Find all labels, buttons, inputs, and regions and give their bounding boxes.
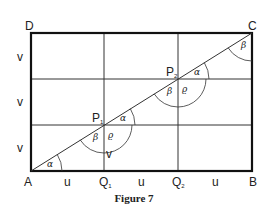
bottom-u-2: u: [138, 175, 145, 189]
angle-beta-C: β: [240, 40, 246, 50]
bottom-u-3: u: [212, 175, 219, 189]
point-Q2: Q2: [172, 175, 185, 189]
bottom-u-1: u: [64, 175, 71, 189]
angle-beta-P1: β: [92, 132, 98, 142]
figure-diagram: α α α β ϱ β ϱ β D C A B P1 P2 u Q1 u Q2 …: [0, 0, 268, 216]
vertex-D: D: [25, 19, 34, 33]
inner-v-label: v: [106, 147, 112, 161]
point-P1: P1: [92, 111, 104, 125]
point-Q1: Q1: [99, 175, 112, 189]
point-P2: P2: [166, 65, 178, 79]
left-v-3: v: [17, 141, 23, 155]
angle-alpha-A: α: [47, 159, 53, 169]
angle-rho-P1: ϱ: [108, 130, 114, 140]
angle-alpha-P1: α: [120, 113, 126, 123]
diagonal-AC: [31, 33, 252, 171]
angle-alpha-P2: α: [194, 67, 200, 77]
vertex-A: A: [24, 175, 32, 189]
left-v-1: v: [17, 50, 23, 64]
angle-beta-P2: β: [166, 86, 172, 96]
angle-arcs: [57, 48, 252, 171]
vertex-C: C: [248, 19, 257, 33]
angle-rho-P2: ϱ: [182, 84, 188, 94]
figure-caption: Figure 7: [0, 192, 268, 204]
left-v-2: v: [17, 95, 23, 109]
vertex-B: B: [249, 175, 257, 189]
